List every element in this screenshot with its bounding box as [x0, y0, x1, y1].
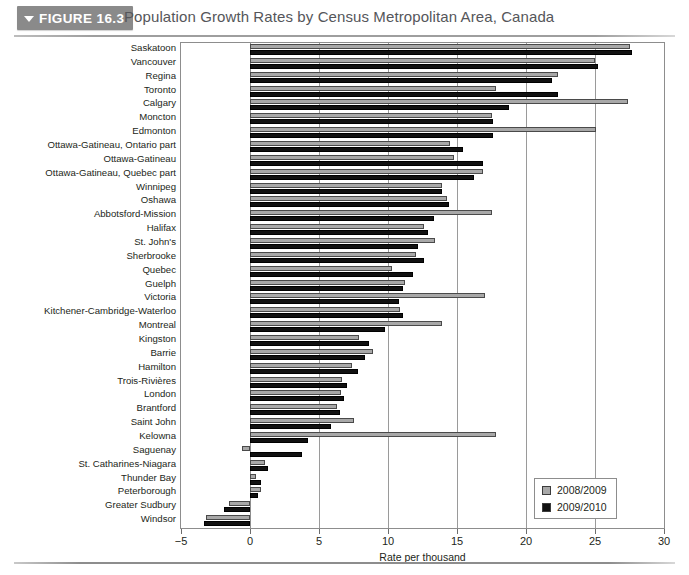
bar-2009-2010	[250, 175, 474, 180]
category-label: Saint John	[0, 417, 176, 427]
category-label: Sherbrooke	[0, 251, 176, 261]
category-label: Saskatoon	[0, 43, 176, 53]
bar-row	[181, 141, 664, 155]
category-label: Hamilton	[0, 362, 176, 372]
figure-header: FIGURE 16.3 Population Growth Rates by C…	[0, 0, 689, 36]
bar-2008-2009	[250, 155, 454, 160]
bar-2008-2009	[250, 266, 392, 271]
bar-2008-2009	[250, 169, 483, 174]
category-label: Greater Sudbury	[0, 500, 176, 510]
category-label: St. Catharines-Niagara	[0, 459, 176, 469]
x-tick-mark	[457, 529, 458, 534]
category-label: Toronto	[0, 85, 176, 95]
figure-badge[interactable]: FIGURE 16.3	[17, 6, 133, 30]
chart: SaskatoonVancouverReginaTorontoCalgaryMo…	[0, 38, 689, 538]
bar-2008-2009	[250, 58, 595, 63]
bar-2009-2010	[250, 105, 509, 110]
bar-2008-2009	[250, 280, 405, 285]
bar-2009-2010	[250, 424, 331, 429]
legend-item[interactable]: 2009/2010	[542, 501, 607, 513]
legend-label: 2008/2009	[557, 484, 607, 496]
bar-2009-2010	[250, 119, 493, 124]
x-tick-mark	[181, 529, 182, 534]
legend-swatch-icon	[542, 486, 551, 495]
bar-2009-2010	[250, 216, 434, 221]
category-label: Kitchener-Cambridge-Waterloo	[0, 306, 176, 316]
x-tick-mark	[595, 529, 596, 534]
legend-swatch-icon	[542, 503, 551, 512]
bar-2008-2009	[250, 390, 341, 395]
x-tick-label: 0	[247, 535, 253, 547]
bar-2009-2010	[250, 493, 258, 498]
bar-2008-2009	[250, 404, 337, 409]
category-label: Calgary	[0, 98, 176, 108]
bar-row	[181, 293, 664, 307]
bar-2008-2009	[250, 113, 492, 118]
bar-row	[181, 418, 664, 432]
gridline-30	[664, 43, 665, 528]
x-tick-mark	[250, 529, 251, 534]
triangle-down-icon[interactable]	[24, 16, 34, 22]
bar-rows	[181, 43, 664, 528]
bar-2008-2009	[250, 141, 450, 146]
bar-2008-2009	[250, 418, 354, 423]
category-label: Abbotsford-Mission	[0, 209, 176, 219]
bar-row	[181, 127, 664, 141]
bar-2009-2010	[250, 258, 424, 263]
bar-2009-2010	[250, 230, 428, 235]
bar-2008-2009	[250, 210, 492, 215]
bar-row	[181, 446, 664, 460]
bar-2008-2009	[242, 446, 250, 451]
bar-2008-2009	[250, 72, 558, 77]
bar-2008-2009	[250, 460, 265, 465]
bar-2009-2010	[250, 286, 403, 291]
bar-2009-2010	[250, 272, 413, 277]
bar-2009-2010	[250, 452, 302, 457]
x-tick-label: 20	[520, 535, 532, 547]
bar-2009-2010	[250, 466, 268, 471]
bar-2008-2009	[229, 501, 250, 506]
category-label: Vancouver	[0, 57, 176, 67]
bar-row	[181, 155, 664, 169]
bar-2008-2009	[250, 349, 373, 354]
x-tick-mark	[388, 529, 389, 534]
bar-2008-2009	[250, 293, 485, 298]
bar-2008-2009	[250, 224, 424, 229]
legend-label: 2009/2010	[557, 501, 607, 513]
bar-2009-2010	[250, 341, 369, 346]
category-label: Oshawa	[0, 195, 176, 205]
bar-2008-2009	[250, 196, 447, 201]
header-divider	[14, 35, 675, 37]
bar-2009-2010	[250, 50, 632, 55]
category-label: Quebec	[0, 265, 176, 275]
x-tick-label: 5	[316, 535, 322, 547]
bar-2008-2009	[250, 127, 596, 132]
category-label: Victoria	[0, 292, 176, 302]
bar-row	[181, 99, 664, 113]
bar-2008-2009	[250, 474, 256, 479]
bar-2009-2010	[250, 64, 598, 69]
legend-item[interactable]: 2008/2009	[542, 484, 607, 496]
bar-2009-2010	[250, 410, 340, 415]
bar-row	[181, 238, 664, 252]
bar-row	[181, 169, 664, 183]
x-tick-label: 10	[382, 535, 394, 547]
bar-row	[181, 44, 664, 58]
category-label: Montreal	[0, 320, 176, 330]
bar-row	[181, 266, 664, 280]
x-tick-mark	[664, 529, 665, 534]
bar-2009-2010	[224, 507, 250, 512]
bar-2008-2009	[250, 335, 359, 340]
category-label: Saguenay	[0, 445, 176, 455]
legend: 2008/20092009/2010	[534, 478, 617, 519]
bar-2008-2009	[250, 99, 628, 104]
bar-2008-2009	[250, 321, 442, 326]
bar-2009-2010	[250, 327, 385, 332]
category-axis-labels: SaskatoonVancouverReginaTorontoCalgaryMo…	[0, 42, 176, 529]
category-label: Thunder Bay	[0, 473, 176, 483]
bar-2009-2010	[250, 383, 347, 388]
category-label: Regina	[0, 71, 176, 81]
bar-row	[181, 58, 664, 72]
bar-2009-2010	[250, 480, 261, 485]
bar-2009-2010	[250, 438, 308, 443]
